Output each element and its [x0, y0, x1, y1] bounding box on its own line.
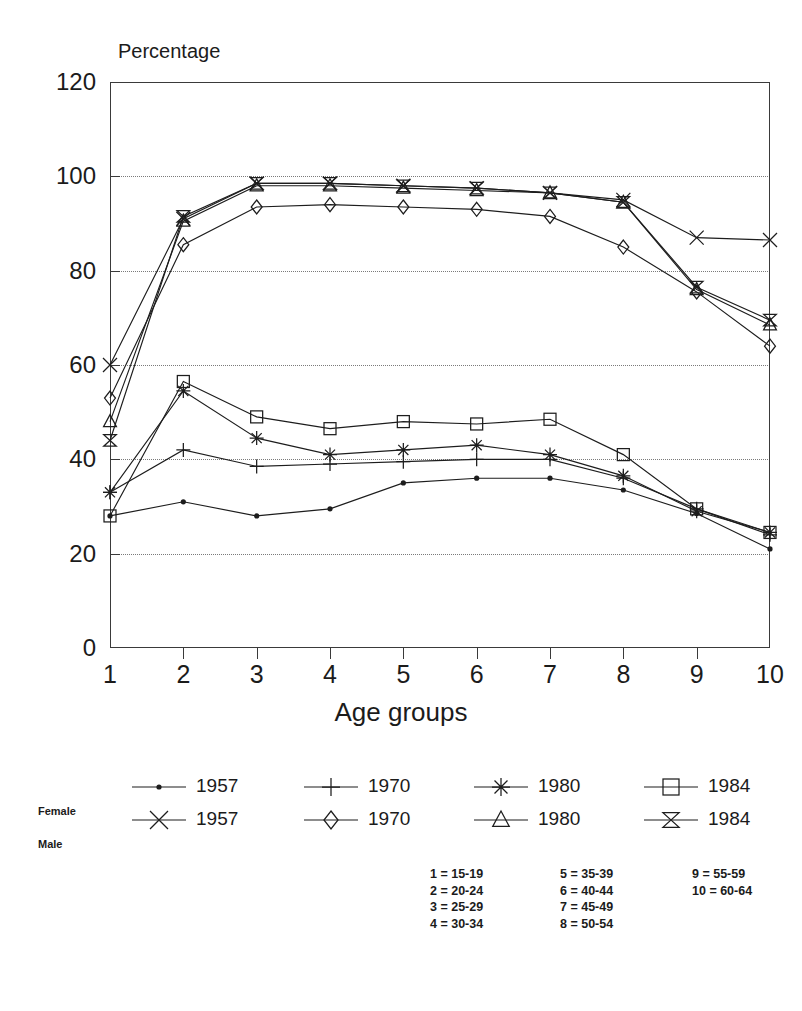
age-group-key: 1 = 15-192 = 20-243 = 25-294 = 30-34 5 =… — [430, 866, 790, 952]
dot-marker — [401, 480, 406, 485]
series-line — [110, 183, 770, 440]
dot-marker — [474, 476, 479, 481]
age-key-entry: 1 = 15-19 — [430, 866, 483, 883]
legend-year-label: 1970 — [368, 808, 410, 830]
series-male-1980 — [104, 179, 777, 427]
series-line — [110, 450, 770, 535]
legend-row-male: 1957197019801984 — [0, 805, 802, 835]
asterisk-marker — [492, 778, 510, 796]
series-male-1984 — [104, 178, 777, 447]
asterisk-marker — [250, 431, 264, 445]
series-female-1980 — [103, 384, 777, 539]
bowtie-marker — [104, 435, 117, 446]
series-line — [110, 186, 770, 422]
dot-marker — [767, 546, 772, 551]
asterisk-marker — [103, 485, 117, 499]
dot-marker — [327, 506, 332, 511]
dot-marker — [547, 476, 552, 481]
legend-symbol — [640, 772, 702, 802]
dot-marker — [181, 499, 186, 504]
legend-row-female: 1957197019801984 — [0, 772, 802, 802]
figure-root: Percentage 020406080100120 12345678910 A… — [0, 0, 802, 1011]
legend-year-label: 1957 — [196, 775, 238, 797]
legend-symbol — [640, 805, 702, 835]
age-key-entry: 6 = 40-44 — [560, 883, 613, 900]
dot-marker — [254, 513, 259, 518]
legend-symbol — [470, 772, 532, 802]
bowtie-marker — [764, 314, 777, 325]
plus-marker — [176, 443, 190, 457]
age-key-entry: 2 = 20-24 — [430, 883, 483, 900]
plus-marker — [250, 459, 264, 473]
age-key-entry: 5 = 35-39 — [560, 866, 613, 883]
age-key-entry: 10 = 60-64 — [692, 883, 752, 900]
legend-year-label: 1970 — [368, 775, 410, 797]
legend-symbol — [128, 805, 190, 835]
plus-marker — [322, 778, 340, 796]
series-line — [110, 478, 770, 549]
asterisk-marker — [323, 448, 337, 462]
legend-year-label: 1980 — [538, 775, 580, 797]
asterisk-marker — [616, 469, 630, 483]
asterisk-marker — [543, 448, 557, 462]
legend-year-label: 1980 — [538, 808, 580, 830]
legend-symbol — [300, 772, 362, 802]
series-female-1957 — [107, 476, 772, 552]
legend-label-male: Male — [38, 838, 62, 850]
dot-marker — [156, 784, 161, 789]
legend-label-female: Female — [38, 805, 76, 817]
asterisk-marker — [396, 443, 410, 457]
asterisk-marker — [470, 438, 484, 452]
legend-year-label: 1984 — [708, 775, 750, 797]
series-female-1970 — [103, 443, 777, 542]
age-key-column-2: 5 = 35-396 = 40-447 = 45-498 = 50-54 — [560, 866, 613, 932]
legend-year-label: 1984 — [708, 808, 750, 830]
legend-symbol — [300, 805, 362, 835]
cross-marker — [103, 358, 117, 372]
data-series-layer — [0, 0, 802, 1011]
age-key-entry: 4 = 30-34 — [430, 916, 483, 933]
triangle-marker — [493, 811, 510, 826]
age-key-entry: 7 = 45-49 — [560, 899, 613, 916]
x-axis-title: Age groups — [0, 697, 802, 728]
series-male-1957 — [103, 176, 777, 372]
age-key-entry: 3 = 25-29 — [430, 899, 483, 916]
legend-symbol — [128, 772, 190, 802]
asterisk-marker — [690, 504, 704, 518]
legend-symbol — [470, 805, 532, 835]
plus-marker — [470, 452, 484, 466]
dot-marker — [621, 487, 626, 492]
series-line — [110, 183, 770, 365]
age-key-entry: 9 = 55-59 — [692, 866, 752, 883]
series-female-1984 — [104, 376, 776, 539]
series-male-1970 — [105, 198, 776, 405]
legend: 1957197019801984 1957197019801984 — [0, 772, 802, 850]
series-line — [110, 205, 770, 398]
age-key-column-3: 9 = 55-5910 = 60-64 — [692, 866, 752, 899]
legend-year-label: 1957 — [196, 808, 238, 830]
series-line — [110, 391, 770, 532]
series-line — [110, 382, 770, 533]
age-key-entry: 8 = 50-54 — [560, 916, 613, 933]
age-key-column-1: 1 = 15-192 = 20-243 = 25-294 = 30-34 — [430, 866, 483, 932]
